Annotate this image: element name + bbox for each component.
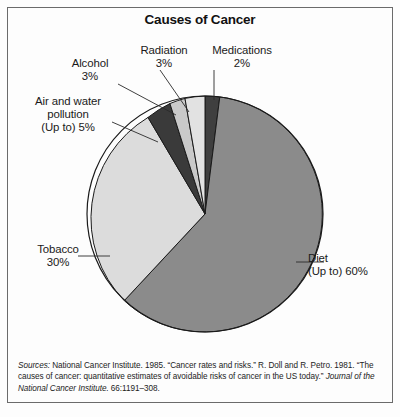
slice-label-alcohol: Alcohol 3% [52, 57, 128, 83]
source-text-2: 66:1191–308. [109, 384, 160, 393]
figure-container: Causes of Cancer Radiation 3% [0, 0, 400, 417]
slice-label-diet: Diet (Up to) 60% [308, 252, 392, 278]
slice-label-radiation: Radiation 3% [128, 44, 200, 70]
slice-label-tobacco: Tobacco 30% [20, 243, 96, 269]
pie-slices [87, 96, 323, 332]
leader-line-alcohol [118, 84, 176, 115]
source-text-1: National Cancer Institute. 1985. “Cancer… [18, 361, 373, 381]
slice-label-medications: Medications 2% [196, 44, 288, 70]
source-note: Sources: National Cancer Institute. 1985… [18, 360, 382, 394]
slice-label-air-and-water-pollution: Air and water pollution (Up to) 5% [16, 95, 120, 135]
source-prefix: Sources: [18, 361, 50, 370]
